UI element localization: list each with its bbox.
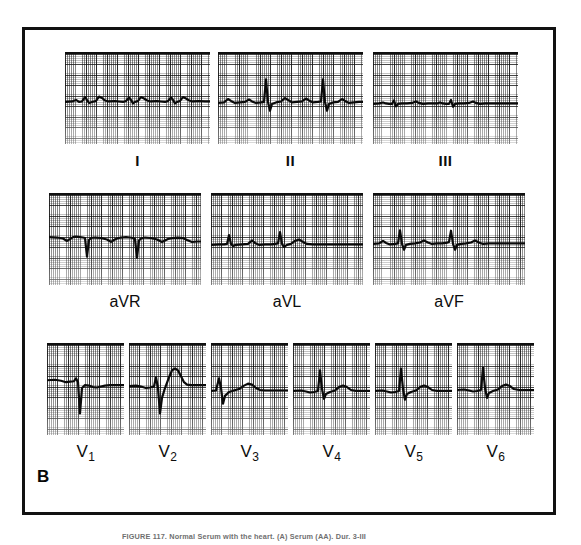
ecg-trace-lead-V3 [211,345,288,435]
ecg-strip-lead-aVR [49,193,201,285]
ecg-strip-lead-V2 [129,343,206,435]
ecg-strip-lead-V3 [211,343,288,435]
ecg-trace-lead-III [373,54,518,144]
lead-label-V4: V4 [293,442,370,462]
ecg-strip-lead-V6 [457,343,534,435]
lead-label-I: I [65,152,210,169]
ecg-trace-lead-aVL [211,195,363,285]
lead-label-V6-letter: V [486,442,497,461]
lead-label-V5-sub: 5 [416,450,423,464]
ecg-strip-lead-III [373,52,518,144]
ecg-trace-lead-V1 [47,345,124,435]
ecg-trace-lead-V5 [375,345,452,435]
ecg-strip-lead-V4 [293,343,370,435]
figure-caption: FIGURE 117. Normal Serum with the heart.… [122,532,522,541]
ecg-strip-lead-aVL [211,193,363,285]
lead-label-V5: V5 [375,442,452,462]
ecg-row-augmented-leads: aVR aVL aVF [25,193,559,323]
ecg-strip-lead-V1 [47,343,124,435]
ecg-strip-lead-V5 [375,343,452,435]
lead-label-V3: V3 [211,442,288,462]
lead-label-aVR: aVR [49,293,201,311]
lead-label-V6-sub: 6 [498,450,505,464]
ecg-strip-lead-I [65,52,210,144]
lead-label-V1-letter: V [76,442,87,461]
lead-label-aVL: aVL [211,293,363,311]
lead-label-V2: V2 [129,442,206,462]
lead-label-V1-sub: 1 [88,450,95,464]
ecg-strip-lead-II [218,52,363,144]
lead-label-V2-sub: 2 [170,450,177,464]
lead-label-V1: V1 [47,442,124,462]
ecg-trace-lead-aVR [49,195,201,285]
ecg-strip-lead-aVF [373,193,525,285]
ecg-trace-lead-II [218,54,363,144]
lead-label-III: III [373,152,518,169]
ecg-trace-lead-aVF [373,195,525,285]
lead-label-aVF: aVF [373,293,525,311]
ecg-trace-lead-V6 [457,345,534,435]
lead-label-II: II [218,152,363,169]
figure-border: I II III aVR aVL aVF [22,27,556,515]
lead-label-V3-sub: 3 [252,450,259,464]
lead-label-V4-sub: 4 [334,450,341,464]
lead-label-V5-letter: V [404,442,415,461]
lead-label-V2-letter: V [158,442,169,461]
ecg-trace-lead-V2 [129,345,206,435]
lead-label-V6: V6 [457,442,534,462]
lead-label-V4-letter: V [322,442,333,461]
lead-label-V3-letter: V [240,442,251,461]
panel-letter-label: B [37,467,49,487]
ecg-trace-lead-V4 [293,345,370,435]
ecg-trace-lead-I [65,54,210,144]
ecg-row-precordial-leads: V1 V2 V3 V4 V5 V6 [25,343,559,473]
ecg-row-limb-leads: I II III [25,52,559,182]
